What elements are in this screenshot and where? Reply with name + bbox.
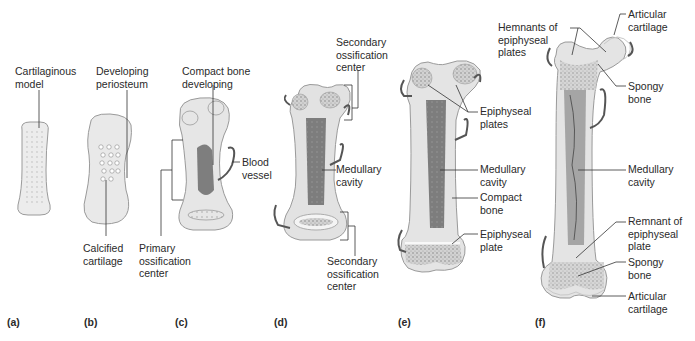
label-medullary-cavity-d: Medullary cavity [336, 163, 382, 188]
bone-e [398, 61, 480, 272]
label-articular-cartilage-bottom: Articular cartilage [628, 290, 668, 315]
bone-c [161, 85, 240, 236]
label-medullary-cavity-e: Medullary cavity [480, 163, 526, 188]
label-secondary-ossification-center-bottom: Secondary ossification center [327, 255, 379, 293]
label-cartilaginous-model: Cartilaginous model [15, 65, 76, 90]
label-calcified-cartilage: Calcified cartilage [83, 242, 123, 267]
label-compact-bone-developing: Compact bone developing [182, 65, 250, 90]
label-medullary-cavity-f: Medullary cavity [628, 163, 674, 188]
panel-label-c: (c) [175, 316, 188, 328]
label-secondary-ossification-center-top: Secondary ossification center [336, 36, 388, 74]
bone-development-diagram: Cartilaginous model Developing periosteu… [0, 0, 695, 341]
bone-a [18, 90, 51, 215]
panel-label-a: (a) [7, 316, 20, 328]
label-hemnants-of-epiphyseal-plates: Hemnants of epiphyseal plates [498, 21, 558, 59]
panel-label-f: (f) [535, 316, 546, 328]
label-epiphyseal-plate: Epiphyseal plate [480, 228, 531, 253]
label-developing-periosteum: Developing periosteum [96, 65, 149, 90]
label-remnant-of-epiphyseal-plate: Remnant of epiphyseal plate [628, 215, 682, 253]
label-blood-vessel: Blood vessel [242, 156, 272, 181]
bone-b [84, 90, 131, 236]
label-spongy-bone-top: Spongy bone [628, 80, 664, 105]
panel-label-e: (e) [398, 316, 411, 328]
label-spongy-bone-bottom: Spongy bone [628, 256, 664, 281]
label-primary-ossification-center: Primary ossification center [139, 242, 191, 280]
label-articular-cartilage-top: Articular cartilage [628, 8, 668, 33]
label-compact-bone: Compact bone [480, 191, 522, 216]
panel-label-d: (d) [274, 316, 287, 328]
label-epiphyseal-plates: Epiphyseal plates [480, 105, 531, 130]
panel-label-b: (b) [84, 316, 97, 328]
